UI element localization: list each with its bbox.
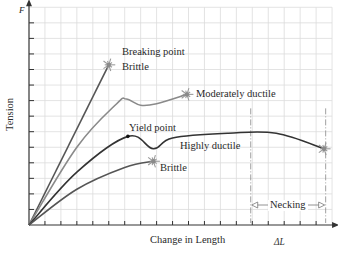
moderately-ductile-label: Moderately ductile bbox=[196, 89, 276, 100]
brittle-top-label: Brittle bbox=[122, 62, 149, 73]
y-axis-label: Tension bbox=[4, 98, 15, 131]
brittle-bottom-label: Brittle bbox=[160, 163, 187, 174]
x-axis-symbol: ΔL bbox=[274, 237, 285, 247]
yield-point-label: Yield point bbox=[129, 123, 176, 134]
highly-ductile-label: Highly ductile bbox=[180, 141, 240, 152]
break-star-icon bbox=[182, 88, 194, 100]
break-star-icon bbox=[319, 143, 331, 155]
curve-brittle-high-strength bbox=[29, 65, 109, 225]
necking-label: Necking bbox=[268, 200, 308, 211]
x-axis-label: Change in Length bbox=[150, 235, 225, 246]
grid bbox=[29, 7, 332, 225]
breaking-point-label: Breaking point bbox=[122, 47, 185, 58]
break-star-icon bbox=[148, 155, 160, 167]
yield-point-marker bbox=[126, 135, 130, 139]
y-axis-symbol: F bbox=[19, 5, 25, 15]
